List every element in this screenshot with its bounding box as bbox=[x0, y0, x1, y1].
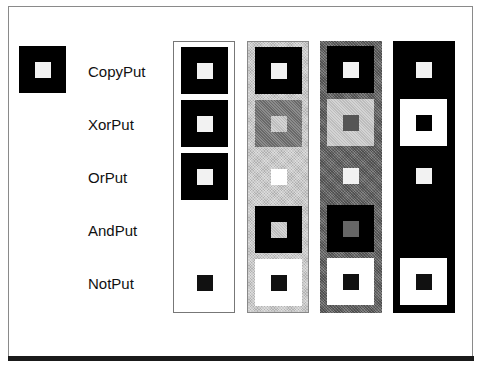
cell-orput-black bbox=[400, 152, 447, 199]
cell-xorput-white bbox=[181, 100, 228, 147]
cell-orput-white bbox=[181, 153, 228, 200]
column-white bbox=[173, 41, 235, 313]
cell-xorput-dark bbox=[327, 99, 374, 146]
cell-xorput-black bbox=[400, 99, 447, 146]
mode-label-copyput: CopyPut bbox=[88, 64, 146, 80]
column-dark-gray bbox=[320, 41, 382, 313]
mode-label-andput: AndPut bbox=[88, 223, 137, 239]
cell-orput-dark bbox=[327, 152, 374, 199]
cell-copyput-dark bbox=[327, 46, 374, 93]
cell-andput-black bbox=[400, 205, 447, 252]
cell-xorput-light bbox=[255, 100, 302, 147]
cell-andput-dark bbox=[327, 205, 374, 252]
mode-label-orput: OrPut bbox=[88, 170, 127, 186]
cell-copyput-white bbox=[181, 47, 228, 94]
column-black bbox=[393, 41, 455, 313]
cell-notput-black bbox=[400, 258, 447, 305]
cell-orput-light bbox=[255, 153, 302, 200]
column-light-gray bbox=[247, 41, 309, 313]
mode-label-notput: NotPut bbox=[88, 276, 134, 292]
cell-copyput-light bbox=[255, 47, 302, 94]
cell-notput-white bbox=[181, 259, 228, 306]
cell-notput-light bbox=[255, 259, 302, 306]
cell-copyput-black bbox=[400, 46, 447, 93]
source-icon-inner bbox=[35, 62, 51, 78]
cell-andput-light bbox=[255, 206, 302, 253]
cell-andput-white bbox=[181, 206, 228, 253]
source-icon bbox=[19, 46, 66, 93]
mode-label-xorput: XorPut bbox=[88, 117, 134, 133]
bottom-bar bbox=[8, 356, 474, 361]
cell-notput-dark bbox=[327, 258, 374, 305]
